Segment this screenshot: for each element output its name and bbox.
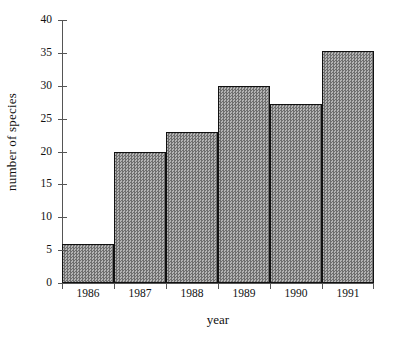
bar-1989 [218, 86, 270, 283]
x-axis-tick-label: 1991 [337, 288, 360, 300]
bar-series [62, 20, 374, 283]
y-axis-tick-label: 30 [41, 80, 53, 92]
y-axis-tick-label: 25 [41, 113, 53, 125]
y-axis-tick-label: 20 [41, 146, 53, 158]
x-axis-tick-label: 1989 [233, 288, 256, 300]
y-axis-title-text: number of species [4, 93, 20, 191]
x-axis-tick-label: 1988 [181, 288, 204, 300]
x-axis-tick-labels: 198619871988198919901991 [62, 288, 374, 306]
y-axis-tick-label: 35 [41, 47, 53, 59]
y-axis-tick-mark [58, 119, 67, 120]
y-axis-tick-mark [58, 86, 67, 87]
x-axis-tick-label: 1986 [77, 288, 100, 300]
y-axis-tick-mark [58, 53, 67, 54]
y-axis-tick-mark [58, 217, 67, 218]
x-axis-tick-label: 1990 [285, 288, 308, 300]
plot-area [62, 20, 374, 285]
bar-1990 [270, 104, 322, 283]
bar-chart-figure: number of species 0510152025303540 19861… [0, 0, 402, 341]
y-axis-tick-label: 0 [46, 277, 52, 289]
y-axis-tick-labels: 0510152025303540 [24, 0, 56, 300]
bar-1987 [114, 152, 166, 284]
y-axis-tick-label: 40 [41, 14, 53, 26]
x-axis-tick-label: 1987 [129, 288, 152, 300]
y-axis-tick-mark [58, 250, 67, 251]
bar-1991 [322, 51, 374, 283]
y-axis-tick-mark [58, 184, 67, 185]
y-axis-tick-label: 5 [46, 244, 52, 256]
y-axis-tick-label: 15 [41, 179, 53, 191]
y-axis-tick-mark [58, 20, 67, 21]
y-axis-tick-mark [58, 152, 67, 153]
x-axis-title: year [62, 312, 374, 328]
bar-1986 [62, 244, 114, 283]
bar-1988 [166, 132, 218, 283]
y-axis-tick-label: 10 [41, 212, 53, 224]
y-axis-title: number of species [0, 0, 24, 283]
